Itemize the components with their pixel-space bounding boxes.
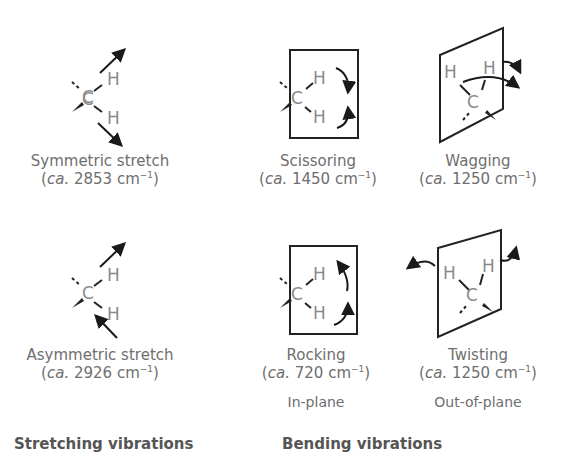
svg-text:H: H [313,303,326,323]
symmetric-stretch-caption: Symmetric stretch (ca. 2853 cm−1) [31,152,169,188]
rocking-caption: Rocking (ca. 720 cm−1) [262,346,370,382]
svg-text:H: H [443,263,456,283]
svg-text:H: H [107,265,120,285]
svg-text:C: C [291,284,303,304]
vibration-diagram: C [0,0,577,456]
svg-text:H: H [444,62,457,82]
wagging-molecule [440,28,520,142]
bending-group-label: Bending vibrations [282,435,442,453]
svg-text:C: C [82,87,94,107]
in-plane-label: In-plane [288,394,345,410]
atom-labels: CHH CHH CHH CHH CHH CHH [82,58,496,324]
stretching-group-label: Stretching vibrations [14,435,193,453]
asymmetric-stretch-caption: Asymmetric stretch (ca. 2926 cm−1) [26,346,173,382]
out-of-plane-label: Out-of-plane [434,394,521,410]
svg-text:H: H [107,69,120,89]
svg-text:H: H [483,58,496,78]
svg-text:H: H [482,256,495,276]
svg-text:H: H [107,304,120,324]
wagging-caption: Wagging (ca. 1250 cm−1) [419,152,537,188]
svg-text:C: C [467,92,479,112]
svg-text:H: H [313,264,326,284]
svg-text:C: C [291,88,303,108]
svg-text:C: C [466,285,478,305]
svg-text:H: H [313,107,326,127]
symmetric-stretch-molecule: C [72,50,124,145]
scissoring-caption: Scissoring (ca. 1450 cm−1) [259,152,377,188]
twisting-molecule [408,230,516,337]
svg-text:C: C [82,283,94,303]
svg-text:H: H [107,108,120,128]
twisting-caption: Twisting (ca. 1250 cm−1) [419,346,537,382]
svg-text:H: H [313,68,326,88]
